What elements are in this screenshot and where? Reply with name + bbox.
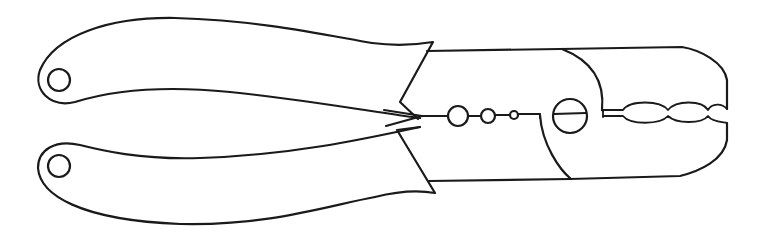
strip-hole-large: [448, 106, 468, 126]
jaw-vertex: [384, 110, 422, 126]
lower-handle: [38, 127, 435, 224]
pliers-diagram: [0, 0, 761, 238]
screw-slot: [554, 113, 586, 114]
strip-hole-medium: [481, 109, 495, 123]
strip-hole-small: [510, 111, 518, 119]
stripping-holes: [422, 106, 540, 126]
lower-handle-hole: [48, 155, 70, 177]
wire-stripper-illustration: [0, 0, 761, 238]
crimp-jaws: [602, 103, 727, 124]
upper-handle-hole: [48, 69, 70, 91]
pivot-screw: [553, 99, 587, 133]
upper-handle: [38, 18, 433, 119]
